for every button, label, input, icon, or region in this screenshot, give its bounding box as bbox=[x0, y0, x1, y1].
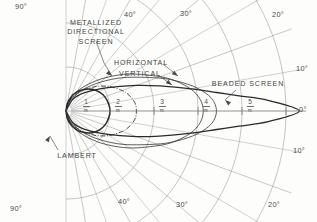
label-metallized-directional-screen: METALLIZED DIRECTIONAL SCREEN bbox=[53, 19, 139, 47]
radial-tick-1-num: 1 bbox=[80, 99, 92, 105]
label-metallized-line2: DIRECTIONAL bbox=[67, 28, 125, 36]
radial-tick-5: 5 π bbox=[244, 99, 256, 114]
radial-tick-4: 4 π bbox=[200, 99, 212, 114]
radial-tick-2-den: π bbox=[112, 107, 124, 113]
angle-label-30-top: 30° bbox=[180, 9, 192, 18]
leader-lambert bbox=[50, 136, 58, 150]
grid-ray--10 bbox=[71, 112, 302, 153]
label-vertical: VERTICAL bbox=[112, 70, 168, 79]
label-beaded-screen: BEADED SCREEN bbox=[206, 80, 290, 89]
angle-label-10-top: 10° bbox=[296, 64, 308, 73]
radial-tick-2: 2 π bbox=[112, 99, 124, 114]
angle-label-20-top: 20° bbox=[272, 10, 284, 19]
angle-label-90-bottom: 90° bbox=[10, 204, 22, 213]
label-horizontal: HORIZONTAL bbox=[109, 59, 173, 68]
radial-tick-2-num: 2 bbox=[112, 99, 124, 105]
radial-tick-3-den: π bbox=[156, 107, 168, 113]
label-metallized-line1: METALLIZED bbox=[70, 19, 122, 27]
radial-tick-5-den: π bbox=[244, 107, 256, 113]
angle-label-90-top: 90° bbox=[15, 2, 27, 11]
grid-ray--60 bbox=[69, 116, 186, 222]
label-metallized-line3: SCREEN bbox=[79, 38, 114, 46]
radial-tick-3-num: 3 bbox=[156, 99, 168, 105]
angle-label-30-bottom: 30° bbox=[176, 200, 188, 209]
label-lambert: LAMBERT bbox=[48, 152, 106, 161]
angle-label-20-bottom: 20° bbox=[268, 200, 280, 209]
radial-tick-5-num: 5 bbox=[244, 99, 256, 105]
angle-label-40-top: 40° bbox=[124, 10, 136, 19]
arrowhead-lambert bbox=[45, 135, 52, 142]
arrowhead-beaded bbox=[224, 98, 231, 105]
radial-tick-4-num: 4 bbox=[200, 99, 212, 105]
radial-tick-1-den: π bbox=[80, 107, 92, 113]
figure-canvas: 90° 40° 30° 20° 10° 0° 90° 40° 30° 20° 1… bbox=[0, 0, 317, 222]
arrowhead-vertical bbox=[166, 80, 173, 87]
radial-tick-1: 1 π bbox=[80, 99, 92, 114]
radial-tick-3: 3 π bbox=[156, 99, 168, 114]
grid-ray-10 bbox=[71, 69, 302, 110]
radial-tick-4-den: π bbox=[200, 107, 212, 113]
angle-label-10-bottom: 10° bbox=[293, 146, 305, 155]
angle-label-40-bottom: 40° bbox=[118, 197, 130, 206]
angle-label-0: 0° bbox=[299, 105, 307, 114]
